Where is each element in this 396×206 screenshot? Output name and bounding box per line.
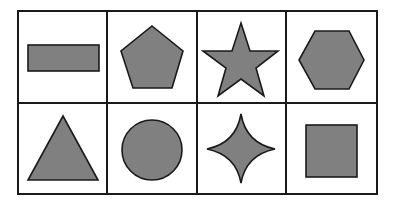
shape-grid: [0, 0, 396, 206]
square-shape: [306, 125, 357, 177]
rectangle-shape: [28, 45, 99, 71]
circle-shape: [122, 120, 182, 180]
